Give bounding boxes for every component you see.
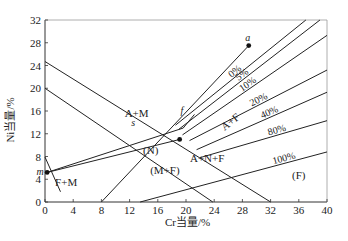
y-tick-label: 4 [36, 173, 42, 185]
x-tick-label: 28 [237, 204, 249, 216]
point-label: a [245, 32, 250, 43]
x-tick-label: 40 [322, 204, 334, 216]
x-tick-label: 20 [181, 204, 193, 216]
schaeffler-diagram: 0%5%10%20%40%80%100%A+MAA+F(N)(M+F)A+N+F… [0, 0, 348, 241]
x-tick-label: 16 [152, 204, 164, 216]
region-label: (M+F) [150, 164, 180, 177]
x-tick-label: 4 [70, 204, 76, 216]
x-tick-label: 32 [265, 204, 276, 216]
data-point [177, 137, 182, 142]
y-tick-label: 0 [36, 196, 42, 208]
x-tick-label: 8 [99, 204, 105, 216]
y-tick-label: 32 [30, 14, 41, 26]
region-label: A+M [125, 107, 149, 119]
diagram-lines [45, 20, 327, 202]
data-point [246, 43, 251, 48]
y-axis-title: Ni当量/% [3, 97, 16, 142]
x-tick-label: 24 [209, 204, 221, 216]
y-tick-label: 8 [36, 151, 42, 163]
x-tick-label: 12 [124, 204, 135, 216]
y-tick-label: 28 [30, 37, 42, 49]
x-tick-label: 0 [42, 204, 48, 216]
y-tick-label: 16 [30, 105, 42, 117]
x-axis-title: Cr当量/% [165, 215, 210, 228]
region-label: A+N+F [190, 152, 224, 164]
region-label: (F) [292, 169, 306, 182]
x-tick-label: 36 [293, 204, 305, 216]
iso-ferrite-label: 80% [266, 122, 287, 138]
data-point [45, 170, 50, 175]
y-tick-label: 12 [30, 128, 41, 140]
diagram-canvas: 0%5%10%20%40%80%100%A+MAA+F(N)(M+F)A+N+F… [0, 0, 348, 241]
region-label: F+M [55, 176, 77, 188]
region-label: A+F [218, 111, 241, 133]
y-tick-label: 20 [30, 82, 42, 94]
region-label: (N) [143, 144, 159, 157]
y-tick-label: 24 [30, 60, 42, 72]
point-label: s [131, 117, 135, 128]
